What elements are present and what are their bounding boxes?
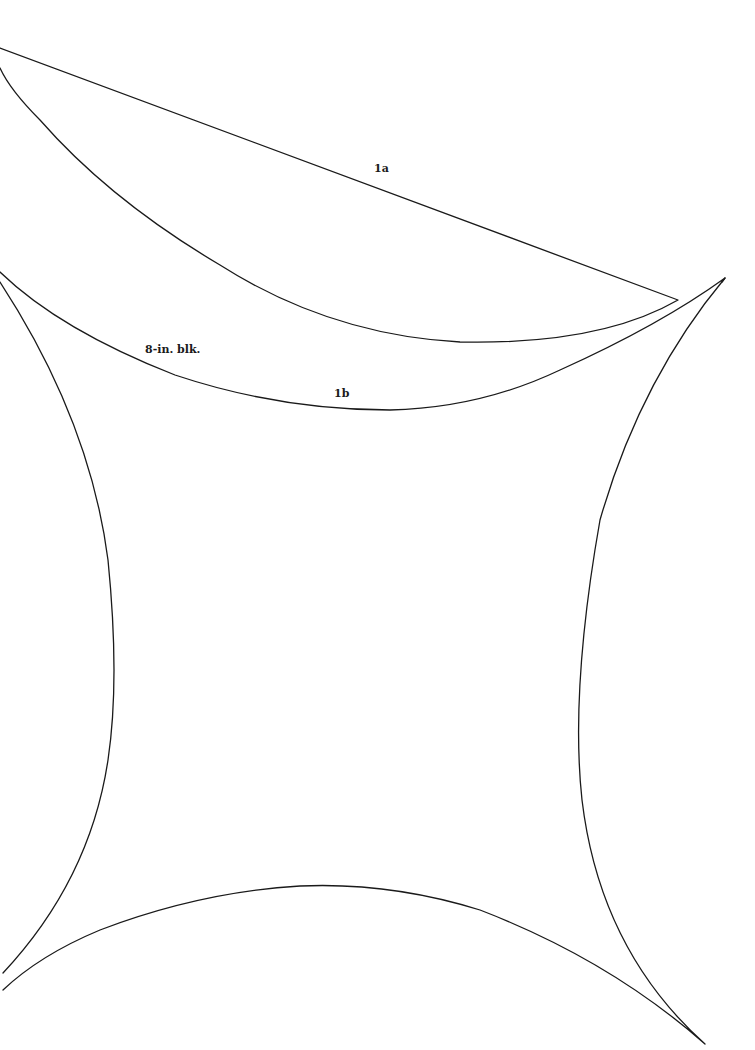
label-piece-1b: 1b	[334, 387, 349, 400]
label-block-size: 8-in. blk.	[145, 343, 200, 356]
label-piece-1a: 1a	[374, 162, 389, 175]
piece-1b-outline	[0, 272, 725, 1044]
piece-1b-left-edge	[0, 282, 114, 973]
pattern-diagram	[0, 0, 755, 1050]
piece-1a-outline	[0, 48, 678, 342]
